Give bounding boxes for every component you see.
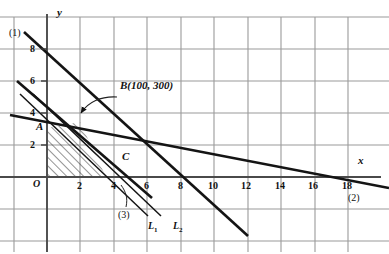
line-label-2: (2) <box>348 192 360 203</box>
y-tick-4: 4 <box>30 107 35 118</box>
vertex-label-A: A <box>36 120 43 132</box>
y-tick-6: 6 <box>30 75 35 86</box>
x-tick-8: 8 <box>178 180 183 191</box>
x-tick-14: 14 <box>275 180 285 191</box>
x-tick-6: 6 <box>144 180 149 191</box>
x-tick-10: 10 <box>208 180 218 191</box>
objective-line-label-1-sub: 1 <box>154 226 158 234</box>
x-tick-18: 18 <box>342 180 352 191</box>
line-label-3: (3) <box>118 209 130 220</box>
figure-canvas: y x O 2 4 6 8 2 4 6 8 10 12 14 16 18 A B… <box>0 0 389 254</box>
x-tick-12: 12 <box>241 180 251 191</box>
line-label-1: (1) <box>9 27 21 38</box>
graph-svg <box>0 0 389 254</box>
x-tick-4: 4 <box>111 180 116 191</box>
vertex-label-C: C <box>122 150 129 162</box>
x-axis-label: x <box>358 154 364 166</box>
y-tick-8: 8 <box>30 43 35 54</box>
objective-line-label-1: L1 <box>148 220 158 234</box>
x-tick-2: 2 <box>77 180 82 191</box>
origin-label: O <box>33 178 40 189</box>
x-tick-16: 16 <box>308 180 318 191</box>
y-axis-label: y <box>57 6 62 18</box>
vertex-label-B: B(100, 300) <box>120 79 173 91</box>
objective-line-label-2-sub: 2 <box>179 226 183 234</box>
objective-line-label-2: L2 <box>173 220 183 234</box>
y-tick-2: 2 <box>30 139 35 150</box>
